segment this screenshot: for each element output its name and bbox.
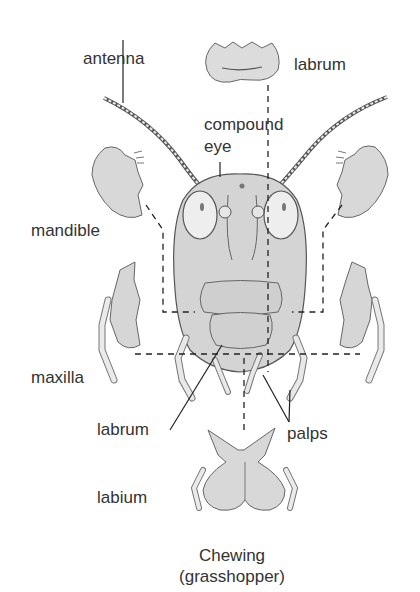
label-labrum-top: labrum <box>294 56 346 73</box>
caption-line2: (grasshopper) <box>22 566 420 587</box>
head-part <box>174 174 307 372</box>
maxilla-left-part <box>102 262 140 380</box>
mandible-left-part <box>92 147 144 218</box>
labium-part <box>194 428 295 510</box>
label-maxilla: maxilla <box>31 369 84 386</box>
maxilla-right-part <box>340 262 381 380</box>
mandible-right-part <box>336 146 388 218</box>
label-mandible: mandible <box>31 222 100 239</box>
labrum-top-part <box>206 42 280 82</box>
label-palps: palps <box>287 425 328 442</box>
label-labium: labium <box>97 489 147 506</box>
caption-line1: Chewing <box>22 545 420 566</box>
label-compound-eye-line2: eye <box>204 138 231 155</box>
grasshopper-mouthparts-illustration <box>0 0 420 592</box>
label-labrum-bottom: labrum <box>97 421 149 438</box>
label-antenna: antenna <box>83 50 144 67</box>
label-compound-eye-line1: compound <box>204 116 283 133</box>
